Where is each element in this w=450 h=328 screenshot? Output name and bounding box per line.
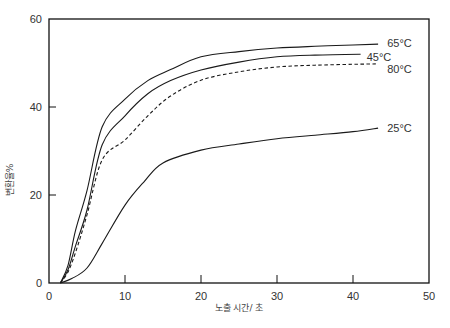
series-label-65c: 65°C xyxy=(387,37,412,49)
line-chart: 01020304050 0204060 65°C45°C80°C25°C 노출 … xyxy=(0,0,450,328)
x-tick-label: 50 xyxy=(423,290,435,302)
series-line-80c xyxy=(60,64,375,283)
y-tick-label: 40 xyxy=(30,101,42,113)
x-tick-label: 30 xyxy=(271,290,283,302)
series-label-80c: 80°C xyxy=(387,63,412,75)
x-tick-label: 20 xyxy=(195,290,207,302)
x-axis-ticks xyxy=(125,275,353,283)
y-axis-tick-labels: 0204060 xyxy=(30,13,42,289)
x-tick-label: 0 xyxy=(46,290,52,302)
y-tick-label: 20 xyxy=(30,189,42,201)
x-tick-label: 10 xyxy=(119,290,131,302)
series-lines xyxy=(60,44,378,283)
series-labels: 65°C45°C80°C25°C xyxy=(367,37,412,134)
series-label-25c: 25°C xyxy=(387,122,412,134)
y-tick-label: 0 xyxy=(36,277,42,289)
x-axis-tick-labels: 01020304050 xyxy=(46,290,435,302)
y-axis-title: 변환율% xyxy=(4,163,15,196)
series-line-45c xyxy=(60,54,360,283)
x-tick-label: 40 xyxy=(347,290,359,302)
series-line-65c xyxy=(60,44,378,283)
y-axis-ticks xyxy=(49,107,56,195)
y-tick-label: 60 xyxy=(30,13,42,25)
x-axis-title: 노출 시간/ 초 xyxy=(215,303,264,313)
series-label-45c: 45°C xyxy=(367,51,392,63)
